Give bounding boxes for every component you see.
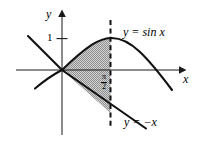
negative-x-line-label: y = −x	[124, 116, 157, 128]
fraction-denominator: 2	[101, 83, 107, 91]
figure-container: y x 1 y = sin x y = −x π 2	[0, 0, 200, 146]
fraction-numerator: π	[101, 73, 107, 81]
math-plot	[0, 0, 200, 146]
fraction-pi-over-2: π 2	[101, 73, 107, 91]
sine-curve-label: y = sin x	[123, 26, 165, 38]
x-axis-label: x	[183, 73, 188, 85]
x-tick-label-pi-over-2: π 2	[101, 73, 107, 91]
y-tick-label-one: 1	[47, 32, 53, 43]
y-axis-label: y	[46, 8, 51, 20]
